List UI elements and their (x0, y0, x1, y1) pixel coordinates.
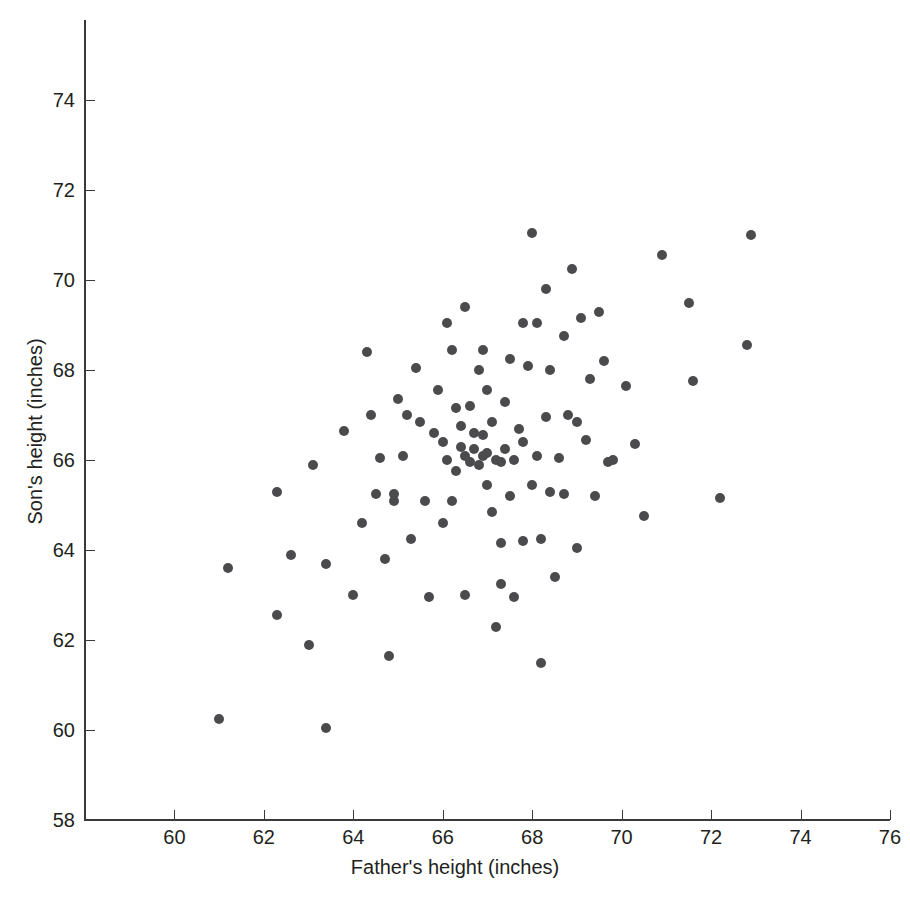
data-point (594, 307, 604, 317)
data-point (402, 410, 412, 420)
data-point (505, 354, 515, 364)
data-point (684, 298, 694, 308)
data-point (474, 365, 484, 375)
data-point (362, 347, 372, 357)
data-point (384, 651, 394, 661)
data-point (599, 356, 609, 366)
data-point (545, 487, 555, 497)
data-point (541, 284, 551, 294)
x-axis-tick-label: 72 (686, 826, 736, 848)
data-point (357, 518, 367, 528)
data-point (411, 363, 421, 373)
data-point (527, 480, 537, 490)
data-point (451, 466, 461, 476)
data-point (590, 491, 600, 501)
data-point (491, 622, 501, 632)
data-point (415, 417, 425, 427)
data-point (536, 534, 546, 544)
x-axis-tick-label: 66 (418, 826, 468, 848)
data-point (442, 318, 452, 328)
y-axis-tick-label: 58 (33, 810, 75, 830)
data-point (554, 453, 564, 463)
data-point (478, 430, 488, 440)
scatterplot-figure: 586062646668707274 606264666870727476 Fa… (0, 0, 910, 898)
data-point (559, 489, 569, 499)
data-point (469, 444, 479, 454)
data-point (688, 376, 698, 386)
data-point (563, 410, 573, 420)
data-point (321, 723, 331, 733)
data-point (393, 394, 403, 404)
data-point (576, 313, 586, 323)
data-point (389, 489, 399, 499)
y-axis-tick (85, 820, 95, 821)
data-point (214, 714, 224, 724)
data-point (460, 590, 470, 600)
data-point (532, 451, 542, 461)
data-point (500, 444, 510, 454)
data-point (447, 496, 457, 506)
data-point (482, 385, 492, 395)
data-point (518, 536, 528, 546)
data-point (545, 365, 555, 375)
data-point (321, 559, 331, 569)
data-point (371, 489, 381, 499)
data-point (272, 610, 282, 620)
data-point (715, 493, 725, 503)
data-point (527, 228, 537, 238)
data-point (509, 592, 519, 602)
x-axis-title: Father's height (inches) (0, 856, 910, 879)
data-point (420, 496, 430, 506)
data-point (451, 403, 461, 413)
data-point (585, 374, 595, 384)
data-point (505, 491, 515, 501)
x-axis-tick-label: 62 (239, 826, 289, 848)
data-point (496, 538, 506, 548)
data-point (442, 455, 452, 465)
data-point (433, 385, 443, 395)
data-point (657, 250, 667, 260)
data-point (456, 421, 466, 431)
data-point (509, 455, 519, 465)
data-point (447, 345, 457, 355)
x-axis-tick-label: 76 (865, 826, 910, 848)
data-point (424, 592, 434, 602)
data-point (438, 518, 448, 528)
data-point (438, 437, 448, 447)
data-point (639, 511, 649, 521)
y-axis-title: Son's height (inches) (24, 102, 47, 762)
data-point (375, 453, 385, 463)
data-point (366, 410, 376, 420)
data-point (496, 579, 506, 589)
data-point (304, 640, 314, 650)
data-point (621, 381, 631, 391)
data-point (567, 264, 577, 274)
data-point (308, 460, 318, 470)
data-point (630, 439, 640, 449)
data-point (429, 428, 439, 438)
x-axis-tick-label: 64 (328, 826, 378, 848)
data-point (518, 318, 528, 328)
x-axis-tick-label: 68 (507, 826, 557, 848)
data-point (523, 361, 533, 371)
data-point (272, 487, 282, 497)
data-point (581, 435, 591, 445)
data-point (559, 331, 569, 341)
data-point (286, 550, 296, 560)
data-point (406, 534, 416, 544)
data-point (380, 554, 390, 564)
data-point (223, 563, 233, 573)
data-point (536, 658, 546, 668)
data-point (746, 230, 756, 240)
data-point (541, 412, 551, 422)
data-point (742, 340, 752, 350)
x-axis-tick (890, 810, 891, 820)
data-point (500, 397, 510, 407)
data-point (487, 417, 497, 427)
data-point (572, 417, 582, 427)
data-point (460, 302, 470, 312)
data-point (339, 426, 349, 436)
data-point (487, 507, 497, 517)
plot-area (85, 20, 890, 820)
x-axis-tick-label: 60 (149, 826, 199, 848)
